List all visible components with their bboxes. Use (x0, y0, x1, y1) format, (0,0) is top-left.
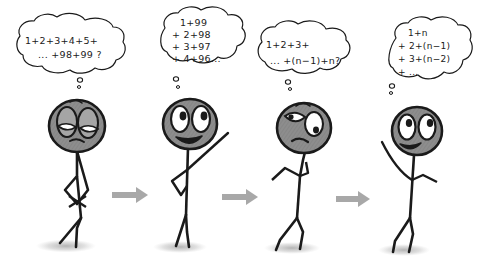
bubble-tail-dot-small (389, 92, 392, 95)
thought-line: + 2+(n−1) (398, 41, 450, 51)
ground-shadow (36, 240, 96, 253)
thought-line: 1+2+3+4+5+ (25, 35, 98, 46)
comic-canvas: 1+2+3+4+5+ ... +98+99 ? (0, 0, 479, 271)
bubble-tail-dot-small (288, 88, 291, 91)
thought-line: + ... (398, 67, 418, 77)
thought-line: + 3+97 (172, 41, 211, 52)
thought-line: 1+2+3+ (266, 39, 310, 50)
head (392, 107, 442, 155)
thought-line: ... +(n−1)+n? (270, 55, 340, 66)
bubble-tail-dot-large (77, 78, 82, 82)
eye-left (171, 106, 189, 132)
bubble-tail-dot-small (176, 86, 179, 89)
pupil-left (288, 115, 293, 120)
thought-line: ... +98+99 ? (38, 49, 102, 60)
pupil-right (313, 127, 319, 134)
pupil-left (406, 119, 412, 127)
eye-left (399, 115, 416, 140)
ground-shadow (264, 242, 320, 254)
head (277, 103, 331, 153)
thought-line: + 3+(n−2) (398, 54, 450, 64)
eye-right (419, 115, 436, 140)
eye-right (78, 108, 98, 138)
pupil-right (427, 119, 433, 127)
bubble-tail-dot-large (173, 77, 178, 81)
thought-line: 1+99 (180, 17, 207, 28)
ground-shadow (153, 241, 207, 253)
thought-line: + 4+96... (172, 53, 221, 64)
ground-shadow (378, 244, 430, 256)
head (49, 100, 105, 152)
comic-scene: 1+2+3+4+5+ ... +98+99 ? (0, 0, 479, 271)
bubble-tail-dot-small (77, 86, 80, 89)
pupil-left (180, 112, 187, 121)
head (163, 99, 217, 149)
eye-left (57, 107, 77, 137)
thought-line: + 2+98 (172, 29, 211, 40)
eye-right (192, 106, 210, 132)
pupil-right (201, 112, 208, 121)
thought-line: 1+n (408, 28, 428, 38)
bubble-tail-dot-large (389, 84, 394, 88)
bubble-tail-dot-large (285, 80, 290, 84)
